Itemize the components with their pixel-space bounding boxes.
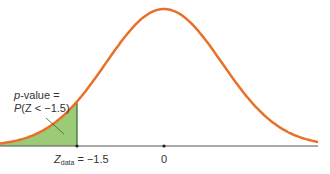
zero-tick-mark xyxy=(162,144,165,147)
density-curve xyxy=(0,9,318,144)
zero-tick-label: 0 xyxy=(161,153,167,165)
z-tick-mark xyxy=(75,144,78,147)
normal-curve-plot xyxy=(0,0,330,174)
p-value-label-line2: P(Z < −1.5) xyxy=(14,102,70,114)
z-data-tick-label: Zdata = −1.5 xyxy=(54,153,109,169)
p-value-label-line1: p-value = xyxy=(14,89,60,101)
